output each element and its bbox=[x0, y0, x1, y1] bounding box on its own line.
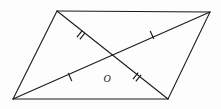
parallelogram-diagram: O bbox=[0, 0, 221, 109]
diagonal-bottomleft-topright bbox=[13, 12, 210, 99]
tick-double-lower-right bbox=[133, 73, 141, 82]
geometry-figure-canvas: O bbox=[0, 0, 221, 109]
tick-stroke-2 bbox=[80, 33, 85, 40]
top-edge bbox=[57, 11, 210, 12]
right-edge bbox=[168, 12, 210, 99]
diagonals-group bbox=[13, 11, 210, 99]
left-edge bbox=[13, 11, 57, 99]
center-point-label: O bbox=[103, 73, 110, 84]
tick-stroke-1 bbox=[77, 31, 82, 38]
